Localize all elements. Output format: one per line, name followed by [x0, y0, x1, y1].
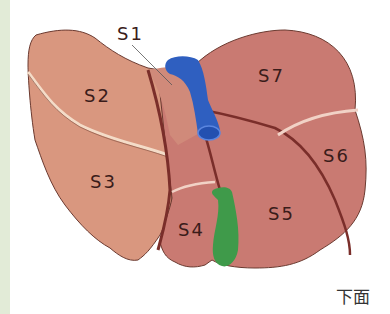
- label-s4: S4: [178, 219, 205, 240]
- label-s3: S3: [90, 171, 117, 192]
- label-s1: S1: [117, 23, 144, 44]
- label-s7: S7: [258, 65, 285, 86]
- label-s6: S6: [323, 145, 350, 166]
- label-s2: S2: [84, 85, 111, 106]
- view-caption: 下面: [336, 283, 370, 308]
- liver-diagram: S1 S2 S3 S4 S5 S6 S7: [0, 0, 390, 314]
- label-s5: S5: [268, 203, 295, 224]
- left-lobe: [28, 30, 172, 260]
